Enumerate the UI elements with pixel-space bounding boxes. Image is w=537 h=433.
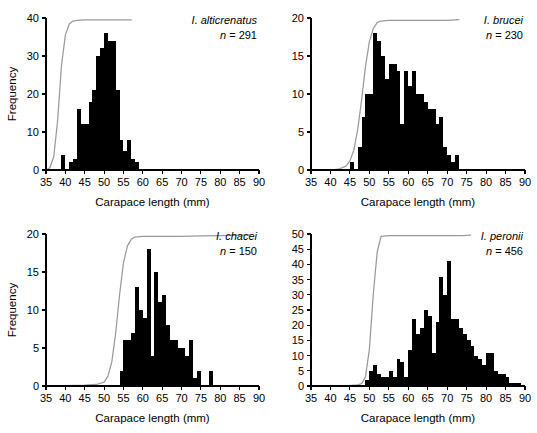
x-tick-label: 75: [461, 392, 473, 404]
histogram-bar: [478, 359, 482, 386]
histogram-bar: [393, 377, 397, 386]
y-tick-label: 5: [298, 365, 304, 377]
y-tick-label: 10: [27, 304, 39, 316]
histogram-bar: [69, 162, 73, 170]
histogram-bar: [96, 56, 100, 170]
y-tick-label: 20: [292, 12, 304, 24]
histogram-bar: [404, 377, 408, 386]
histogram-bar: [147, 249, 151, 386]
x-tick-label: 50: [98, 392, 110, 404]
histogram-bar: [108, 41, 112, 170]
y-tick-label: 10: [27, 126, 39, 138]
x-tick-label: 90: [519, 392, 531, 404]
y-tick-label: 50: [292, 228, 304, 240]
histogram-bar: [143, 318, 147, 386]
x-tick-label: 35: [305, 176, 317, 188]
histogram-bar: [432, 109, 436, 170]
x-tick-label: 45: [79, 176, 91, 188]
histogram-bar: [416, 94, 420, 170]
x-tick-label: 70: [441, 392, 453, 404]
histogram-bar: [447, 155, 451, 170]
histogram-bar: [92, 90, 96, 170]
sample-size-label: n = 230: [486, 29, 523, 41]
histogram-bar: [474, 356, 478, 386]
histogram-bar: [432, 353, 436, 386]
x-tick-label: 75: [461, 176, 473, 188]
y-tick-label: 0: [33, 164, 39, 176]
histogram-bar: [397, 71, 401, 170]
histogram-bar: [170, 340, 174, 386]
histogram-bar: [424, 102, 428, 170]
histogram-bar: [369, 94, 373, 170]
x-axis-title: Carapace length (mm): [361, 196, 476, 208]
sample-size-label: n = 150: [220, 245, 257, 257]
x-tick-label: 85: [234, 176, 246, 188]
x-tick-label: 75: [195, 392, 207, 404]
x-tick-label: 45: [79, 392, 91, 404]
plot-area-p1: 35404550556065707580859005101520Carapace…: [269, 0, 537, 216]
histogram-bar: [498, 374, 502, 386]
x-tick-label: 80: [480, 392, 492, 404]
histogram-bar: [389, 64, 393, 170]
x-tick-label: 35: [40, 176, 52, 188]
panel-brucei: 35404550556065707580859005101520Carapace…: [269, 0, 537, 216]
histogram-bar: [404, 71, 408, 170]
histogram-bar: [471, 346, 475, 386]
x-tick-label: 65: [156, 176, 168, 188]
histogram-bar: [400, 362, 404, 386]
multi-panel-histogram-figure: 354045505560657075808590010203040Carapac…: [0, 0, 537, 433]
plot-area-p2: 35404550556065707580859005101520Carapace…: [0, 216, 268, 432]
histogram-bar: [377, 41, 381, 170]
histogram-bar: [365, 94, 369, 170]
y-tick-label: 30: [292, 289, 304, 301]
histogram-bar: [447, 261, 451, 386]
x-tick-label: 80: [214, 392, 226, 404]
histogram-bar: [131, 333, 135, 386]
x-tick-label: 90: [519, 176, 531, 188]
y-tick-label: 5: [33, 342, 39, 354]
histogram-bar: [420, 94, 424, 170]
histogram-bar: [408, 86, 412, 170]
x-tick-label: 45: [344, 392, 356, 404]
histogram-bar: [420, 328, 424, 386]
y-tick-label: 45: [292, 243, 304, 255]
histogram-bar: [467, 340, 471, 386]
panel-alticrenatus: 354045505560657075808590010203040Carapac…: [0, 0, 268, 216]
histogram-bar: [154, 272, 158, 386]
histogram-bar: [131, 159, 135, 170]
histogram-bar: [393, 64, 397, 170]
x-tick-label: 50: [363, 392, 375, 404]
x-tick-label: 70: [175, 392, 187, 404]
histogram-bar: [412, 319, 416, 386]
species-label: I. brucei: [484, 14, 524, 26]
histogram-bar: [428, 109, 432, 170]
histogram-bar: [350, 162, 354, 170]
histogram-bar: [486, 353, 490, 386]
histogram-bar: [116, 90, 120, 170]
histogram-bar: [506, 377, 510, 386]
histogram-bars: [120, 249, 213, 386]
x-tick-label: 60: [137, 176, 149, 188]
species-label: I. peronii: [481, 230, 524, 242]
x-tick-label: 85: [499, 176, 511, 188]
histogram-bar: [381, 377, 385, 386]
histogram-bar: [123, 151, 127, 170]
histogram-bar: [439, 277, 443, 386]
histogram-bar: [120, 371, 124, 386]
histogram-bar: [377, 374, 381, 386]
x-tick-label: 55: [383, 176, 395, 188]
y-tick-label: 25: [292, 304, 304, 316]
x-tick-label: 75: [195, 176, 207, 188]
histogram-bar: [197, 371, 201, 386]
histogram-bar: [178, 348, 182, 386]
x-tick-label: 80: [480, 176, 492, 188]
x-tick-label: 45: [344, 176, 356, 188]
y-tick-label: 35: [292, 274, 304, 286]
histogram-bar: [158, 302, 162, 386]
x-tick-label: 80: [214, 176, 226, 188]
histogram-bar: [151, 356, 155, 386]
histogram-bar: [166, 325, 170, 386]
histogram-bar: [369, 371, 373, 386]
y-tick-label: 0: [33, 380, 39, 392]
histogram-bar: [358, 147, 362, 170]
